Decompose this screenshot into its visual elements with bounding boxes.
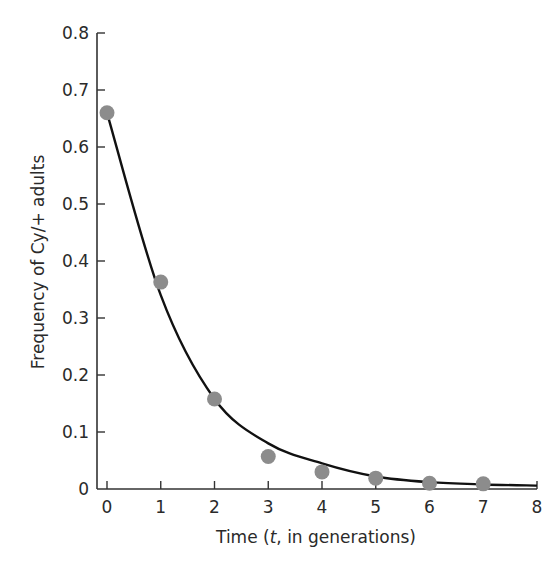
data-point [261,449,276,464]
y-tick-label: 0.3 [62,308,89,328]
x-tick-label: 2 [209,497,220,517]
data-point [100,105,115,120]
y-tick-label: 0.8 [62,23,89,43]
y-tick-label: 0.1 [62,422,89,442]
x-axis-label: Time (t, in generations) [215,527,416,547]
y-tick-label: 0.2 [62,365,89,385]
fitted-curve [107,113,537,486]
data-point [207,391,222,406]
y-tick-label: 0.7 [62,80,89,100]
x-tick-label: 7 [478,497,489,517]
y-tick-label: 0.5 [62,194,89,214]
data-point [153,275,168,290]
x-tick-label: 6 [424,497,435,517]
chart: 00.10.20.30.40.50.60.70.8012345678 Time … [0,0,560,569]
axis-ticks: 00.10.20.30.40.50.60.70.8012345678 [62,23,542,517]
y-axis-label: Frequency of Cy/+ adults [28,155,48,370]
x-tick-label: 3 [263,497,274,517]
x-tick-label: 5 [370,497,381,517]
data-point [476,476,491,491]
x-tick-label: 4 [317,497,328,517]
x-tick-label: 1 [155,497,166,517]
data-points [100,105,491,491]
data-point [422,476,437,491]
fitted-curve-line [107,113,537,486]
data-point [315,464,330,479]
x-tick-label: 0 [102,497,113,517]
y-tick-label: 0.6 [62,137,89,157]
y-tick-label: 0.4 [62,251,89,271]
axes [97,33,537,489]
y-tick-label: 0 [78,479,89,499]
x-tick-label: 8 [532,497,543,517]
data-point [368,471,383,486]
